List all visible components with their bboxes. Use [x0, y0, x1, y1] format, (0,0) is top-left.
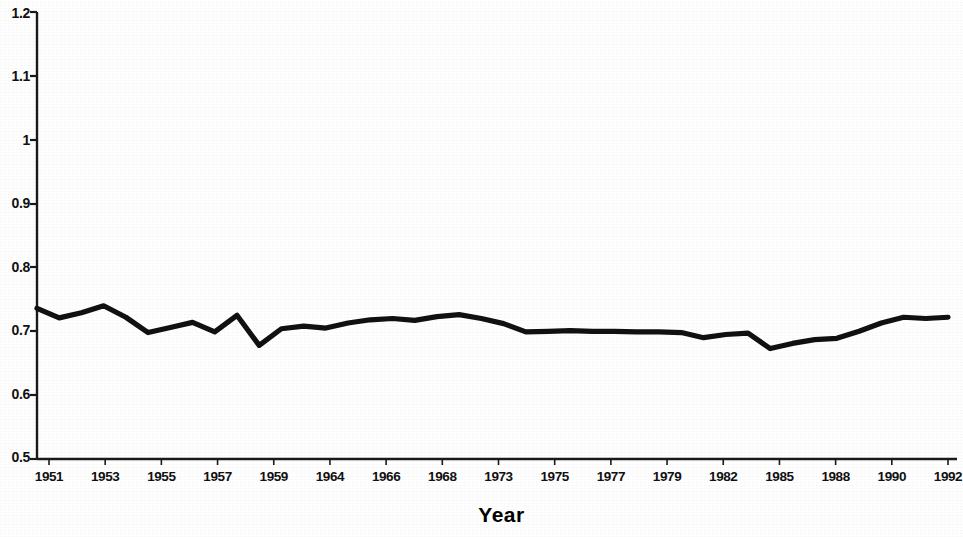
- x-axis-tick-label: 1975: [540, 470, 568, 484]
- x-axis-tick-label: 1953: [91, 470, 119, 484]
- x-axis-tick-label: 1988: [821, 470, 849, 484]
- x-axis-title: Year: [0, 503, 963, 527]
- x-axis-tick-label: 1951: [35, 470, 63, 484]
- data-series-line: [37, 306, 948, 349]
- x-axis-tick-label: 1966: [372, 470, 400, 484]
- x-axis-tick-label: 1990: [878, 470, 906, 484]
- x-axis-tick-label: 1957: [203, 470, 231, 484]
- line-chart-figure: 1.2 1.1 1 0.9 0.8 0.7 0.6 0.5 1951195319…: [0, 0, 963, 537]
- x-axis-tick-label-group: 1951195319551957195919641966196819731975…: [0, 470, 963, 496]
- axis-lines: [37, 12, 957, 459]
- plot-area: [0, 0, 963, 537]
- x-axis-tick-label: 1977: [597, 470, 625, 484]
- x-axis-title-text: Year: [438, 503, 524, 526]
- x-axis-tick-label: 1964: [316, 470, 344, 484]
- x-axis-tick-label: 1982: [709, 470, 737, 484]
- x-axis-tick-label: 1985: [765, 470, 793, 484]
- x-axis-tick-label: 1979: [653, 470, 681, 484]
- x-axis-tick-label: 1992: [934, 470, 962, 484]
- x-axis-tick-label: 1959: [260, 470, 288, 484]
- x-axis-tick-label: 1973: [484, 470, 512, 484]
- x-axis-tick-label: 1955: [147, 470, 175, 484]
- x-axis-tick-label: 1968: [428, 470, 456, 484]
